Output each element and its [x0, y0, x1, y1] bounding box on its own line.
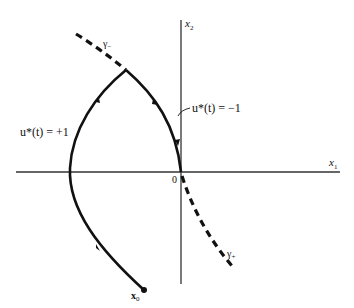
- origin-label: 0: [172, 174, 177, 185]
- plus-one-trajectory: [70, 70, 144, 290]
- start-point-dot: [141, 287, 147, 293]
- label-leader-line: [178, 108, 190, 116]
- minus-one-control-label: u*(t) = −1: [192, 101, 241, 115]
- gamma-minus-curve: [76, 34, 126, 70]
- gamma-minus-label: γ−: [102, 38, 111, 51]
- gamma-plus-curve: [182, 176, 232, 266]
- gamma-plus-label: γ+: [226, 248, 235, 261]
- plus-one-control-label: u*(t) = +1: [20, 125, 69, 139]
- x1-axis-label: x1: [328, 156, 338, 171]
- start-point-label: x0: [131, 290, 140, 303]
- minus-one-trajectory: [126, 70, 181, 172]
- x2-axis-label: x2: [184, 17, 194, 32]
- phase-plane-diagram: x2 x1 0 γ− γ+ u*(t) = +1 u*(t) = −1 x0: [0, 0, 354, 308]
